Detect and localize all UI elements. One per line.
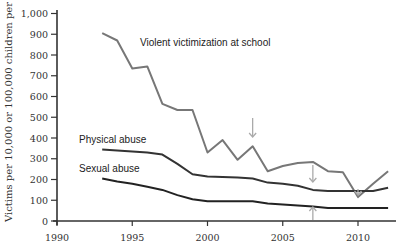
y-tick-label: 200: [30, 174, 48, 185]
y-tick-label: 900: [30, 29, 48, 40]
y-tick-label: 0: [42, 216, 48, 227]
y-axis-label: Victims per 10,000 or 100,000 children p…: [3, 0, 14, 223]
y-tick-label: 100: [30, 195, 48, 206]
series-label-violent: Violent victimization at school: [140, 37, 270, 48]
series-sexual-abuse: [102, 179, 388, 209]
y-tick-label: 500: [30, 112, 48, 123]
series-physical-abuse: [102, 149, 388, 191]
x-tick-label: 2000: [195, 232, 219, 243]
y-tick-label: 800: [30, 50, 48, 61]
y-tick-label: 400: [30, 133, 48, 144]
y-tick-label: 1,000: [21, 8, 48, 19]
x-tick-label: 1995: [120, 232, 144, 243]
series-label-physical: Physical abuse: [79, 134, 147, 145]
y-tick-label: 600: [30, 91, 48, 102]
x-tick-label: 2010: [346, 232, 370, 243]
series-label-sexual: Sexual abuse: [79, 163, 140, 174]
series-lines: [102, 33, 388, 208]
x-tick-label: 2005: [271, 232, 295, 243]
series-violent-victimization: [102, 33, 388, 197]
line-chart: 01002003004005006007008009001,0001990199…: [0, 0, 401, 251]
y-tick-label: 300: [30, 153, 48, 164]
x-tick-label: 1990: [45, 232, 69, 243]
y-tick-label: 700: [30, 70, 48, 81]
